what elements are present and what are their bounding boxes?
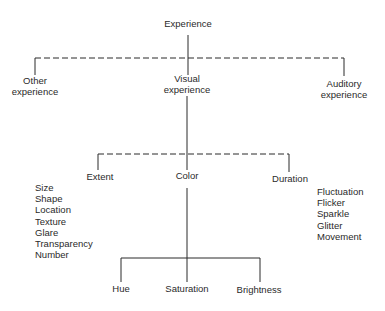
node-extent: Extent xyxy=(80,171,120,182)
node-brightness: Brightness xyxy=(228,284,290,295)
node-label-line2: experience xyxy=(314,89,374,100)
list-item: Glitter xyxy=(317,220,363,231)
node-saturation: Saturation xyxy=(157,283,217,294)
list-item: Location xyxy=(35,204,93,215)
extent-attribute-list: Size Shape Location Texture Glare Transp… xyxy=(35,182,93,260)
list-item: Transparency xyxy=(35,238,93,249)
node-other-experience: Other experience xyxy=(5,75,65,97)
list-item: Shape xyxy=(35,193,93,204)
duration-attribute-list: Fluctuation Flicker Sparkle Glitter Move… xyxy=(317,186,363,242)
node-label: Hue xyxy=(112,283,129,294)
node-label: Saturation xyxy=(165,283,208,294)
list-item: Sparkle xyxy=(317,208,363,219)
list-item: Flicker xyxy=(317,197,363,208)
node-auditory-experience: Auditory experience xyxy=(314,78,374,100)
list-item: Size xyxy=(35,182,93,193)
list-item: Texture xyxy=(35,216,93,227)
node-label-line1: Auditory xyxy=(314,78,374,89)
node-label: Color xyxy=(176,170,199,181)
node-duration: Duration xyxy=(266,173,314,184)
node-label: Brightness xyxy=(237,284,282,295)
node-hue: Hue xyxy=(106,283,136,294)
node-label: Experience xyxy=(164,18,212,29)
list-item: Movement xyxy=(317,231,363,242)
node-label-line1: Other xyxy=(5,75,65,86)
node-label-line2: experience xyxy=(5,86,65,97)
node-visual-experience: Visual experience xyxy=(157,73,217,95)
node-experience: Experience xyxy=(158,18,218,29)
list-item: Number xyxy=(35,249,93,260)
list-item: Glare xyxy=(35,227,93,238)
connector-lines xyxy=(0,0,385,311)
node-color: Color xyxy=(167,170,207,181)
node-label: Extent xyxy=(87,171,114,182)
node-label-line1: Visual xyxy=(157,73,217,84)
node-label-line2: experience xyxy=(157,84,217,95)
list-item: Fluctuation xyxy=(317,186,363,197)
node-label: Duration xyxy=(272,173,308,184)
